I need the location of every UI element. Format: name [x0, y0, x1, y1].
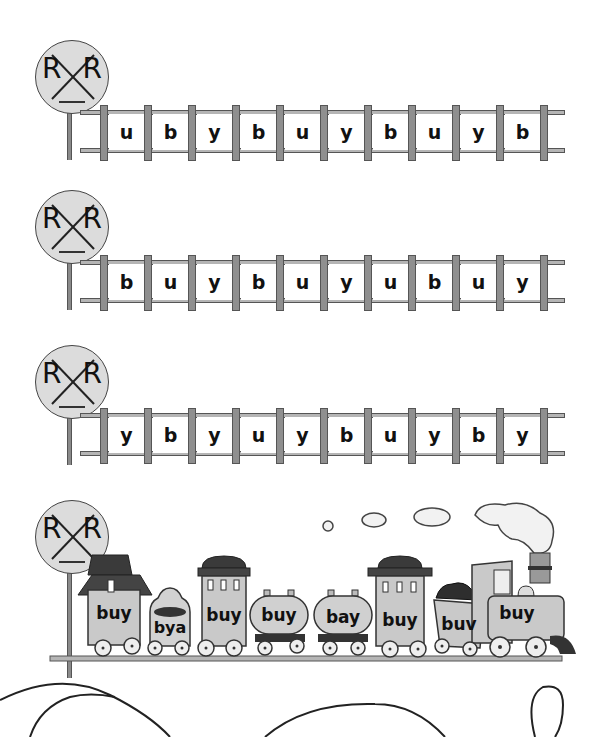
letter-cell[interactable]: u — [373, 417, 408, 453]
passenger-car — [198, 556, 250, 646]
letter-cell[interactable]: b — [241, 114, 276, 150]
letter-cell[interactable]: b — [153, 417, 188, 453]
letter-track-2: b u y b u y u b u y — [80, 260, 565, 306]
tie — [100, 105, 108, 161]
sign-underline — [59, 101, 85, 103]
sign-letter-left: R — [42, 205, 61, 233]
tie — [100, 408, 108, 464]
train-car-label[interactable]: buy — [254, 605, 304, 625]
tie — [364, 105, 372, 161]
tie — [408, 105, 416, 161]
hopper-car — [150, 588, 190, 646]
train-car-label[interactable]: buv — [436, 614, 482, 634]
railroad-crossing-sign: R R — [35, 345, 109, 419]
sign-letter-left: R — [42, 515, 61, 543]
sign-underline — [59, 251, 85, 253]
letter-cell[interactable]: b — [329, 417, 364, 453]
letter-cell[interactable]: b — [505, 114, 540, 150]
wheel-icon — [95, 637, 546, 657]
letter-cell[interactable]: y — [461, 114, 496, 150]
letter-cell[interactable]: y — [285, 417, 320, 453]
tie — [452, 255, 460, 311]
letter-cell[interactable]: u — [241, 417, 276, 453]
tie — [144, 255, 152, 311]
sign-letter-right: R — [83, 515, 102, 543]
letter-cell[interactable]: u — [461, 264, 496, 300]
tie — [232, 255, 240, 311]
letter-cell[interactable]: y — [197, 114, 232, 150]
tie — [188, 408, 196, 464]
letter-cell[interactable]: u — [417, 114, 452, 150]
letter-cell[interactable]: b — [241, 264, 276, 300]
tie — [320, 255, 328, 311]
train-car-label[interactable]: bay — [318, 607, 368, 627]
train-car-label[interactable]: buy — [376, 610, 424, 630]
letter-cell[interactable]: y — [505, 264, 540, 300]
letter-track-1: u b y b u y b u y b — [80, 110, 565, 156]
railroad-crossing-sign: R R — [35, 500, 109, 574]
tie — [540, 408, 548, 464]
train-car-label[interactable]: bya — [147, 618, 193, 637]
letter-cell[interactable]: b — [417, 264, 452, 300]
tie — [100, 255, 108, 311]
train-car-label[interactable]: buy — [490, 603, 544, 623]
tie — [232, 408, 240, 464]
letter-cell[interactable]: y — [329, 264, 364, 300]
railroad-crossing-sign: R R — [35, 40, 109, 114]
tie — [496, 105, 504, 161]
letter-track-3: y b y u y b u y b y — [80, 413, 565, 459]
tie — [364, 408, 372, 464]
letter-cell[interactable]: u — [285, 264, 320, 300]
letter-cell[interactable]: y — [417, 417, 452, 453]
letter-cell[interactable]: b — [109, 264, 144, 300]
letter-cell[interactable]: y — [109, 417, 144, 453]
tie — [144, 408, 152, 464]
tie — [496, 255, 504, 311]
train-car-label[interactable]: buy — [200, 605, 248, 625]
smoke-cloud-icon — [323, 503, 554, 553]
sign-letter-right: R — [83, 55, 102, 83]
letter-cell[interactable]: u — [109, 114, 144, 150]
letter-cell[interactable]: u — [373, 264, 408, 300]
sign-letter-left: R — [42, 55, 61, 83]
passenger-car — [368, 556, 432, 646]
decorative-curve — [0, 684, 563, 737]
tie — [276, 105, 284, 161]
train-car-label[interactable]: buy — [90, 603, 138, 623]
tie — [452, 408, 460, 464]
letter-cell[interactable]: y — [197, 264, 232, 300]
tie — [364, 255, 372, 311]
letter-cell[interactable]: y — [329, 114, 364, 150]
tie — [408, 255, 416, 311]
tie — [452, 105, 460, 161]
tie — [496, 408, 504, 464]
sign-letter-right: R — [83, 360, 102, 388]
tie — [540, 105, 548, 161]
sign-pole — [67, 560, 72, 678]
tie — [540, 255, 548, 311]
tie — [188, 255, 196, 311]
tie — [276, 255, 284, 311]
tie — [320, 105, 328, 161]
letter-cell[interactable]: b — [373, 114, 408, 150]
letter-cell[interactable]: b — [461, 417, 496, 453]
tie — [320, 408, 328, 464]
tie — [188, 105, 196, 161]
tie — [232, 105, 240, 161]
railroad-crossing-sign: R R — [35, 190, 109, 264]
sign-underline — [59, 561, 85, 563]
letter-cell[interactable]: y — [197, 417, 232, 453]
train-rail — [50, 656, 562, 661]
sign-letter-left: R — [42, 360, 61, 388]
letter-cell[interactable]: y — [505, 417, 540, 453]
letter-cell[interactable]: u — [285, 114, 320, 150]
letter-cell[interactable]: u — [153, 264, 188, 300]
sign-letter-right: R — [83, 205, 102, 233]
tie — [144, 105, 152, 161]
letter-cell[interactable]: b — [153, 114, 188, 150]
tie — [408, 408, 416, 464]
tie — [276, 408, 284, 464]
sign-underline — [59, 406, 85, 408]
